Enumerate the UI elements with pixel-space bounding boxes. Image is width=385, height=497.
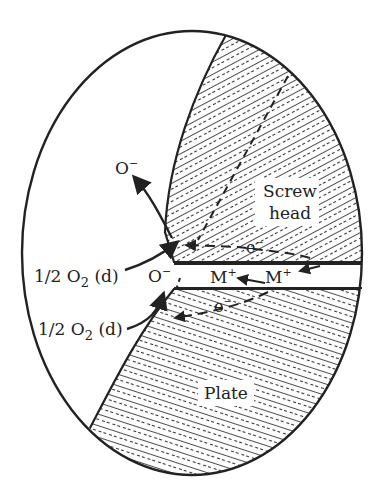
oxygen-upper-label: 1/2 O2 (d) [34, 266, 119, 290]
screw-head-label-line2: head [269, 203, 311, 223]
oxygen-ion-mouth-label: O− [148, 265, 171, 286]
crevice-corrosion-diagram: O− Screw head e− 1/2 O2 (d) O− M+ M+ e− … [0, 0, 385, 497]
screw-head-label-line1: Screw [263, 181, 317, 201]
plate-label: Plate [204, 383, 248, 403]
oxygen-lower-label: 1/2 O2 (d) [38, 319, 123, 343]
oxygen-ion-top-label: O− [115, 157, 138, 178]
screw-head-region [165, 30, 365, 262]
